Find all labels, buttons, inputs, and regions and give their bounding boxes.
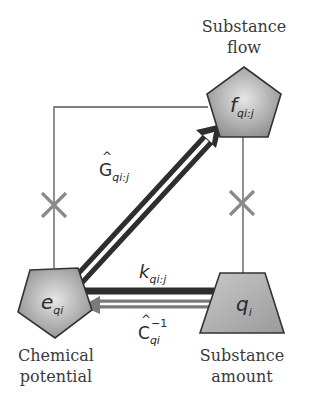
caption-line: Substance <box>196 16 292 37</box>
caption-line: flow <box>196 37 292 58</box>
symbol-subscript: qi:j <box>237 107 254 120</box>
caption-line: Chemical <box>8 345 104 366</box>
symbol-main: f <box>230 93 237 117</box>
symbol-subscript: i <box>249 306 252 319</box>
symbol-subscript: qi:j <box>112 171 129 184</box>
symbol-superscript: −1 <box>151 317 167 330</box>
left-connector-line <box>54 107 208 268</box>
symbol-main: C <box>138 323 150 343</box>
substance-flow-caption: Substance flow <box>196 16 292 58</box>
caption-line: Substance <box>194 345 290 366</box>
symbol-main: q <box>236 292 249 316</box>
rate-constant-label: kqi:j <box>139 261 166 282</box>
caption-line: amount <box>194 366 290 387</box>
cross-right-icon <box>230 191 254 215</box>
substance-flow-symbol: fqi:j <box>230 93 254 117</box>
substance-amount-symbol: qi <box>236 292 252 316</box>
chemical-potential-caption: Chemical potential <box>8 345 104 387</box>
gyrator-label: ^ Gqi:j <box>99 160 129 180</box>
symbol-subscript: qi:j <box>149 273 166 286</box>
symbol-main: k <box>139 261 149 282</box>
capacitance-inverse-label: ^ C−1qi <box>138 323 160 343</box>
symbol-subscript: qi <box>53 304 63 317</box>
caption-line: potential <box>8 366 104 387</box>
symbol-main: G <box>99 160 112 180</box>
symbol-subscript: qi <box>150 334 160 347</box>
chemical-potential-symbol: eqi <box>41 290 63 314</box>
capacitance-inverse-arrow <box>82 296 210 314</box>
symbol-main: e <box>41 290 53 314</box>
substance-amount-caption: Substance amount <box>194 345 290 387</box>
